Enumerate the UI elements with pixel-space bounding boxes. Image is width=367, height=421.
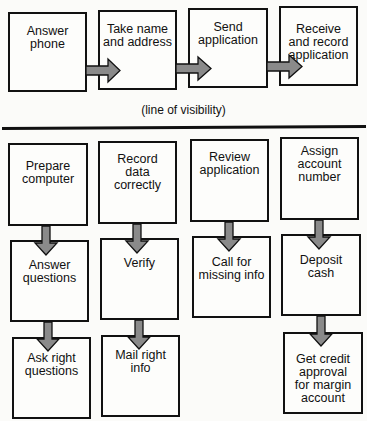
step-label: Review application (200, 151, 260, 177)
step-label: Assign account number (298, 145, 342, 184)
step-label: Mail right info (115, 349, 166, 375)
step-call-for-missing-info: Call for missing info (192, 236, 271, 318)
step-send-application: Send application (188, 8, 268, 88)
step-receive-record-application: Receive and record application (279, 6, 358, 86)
step-prepare-computer: Prepare computer (8, 143, 88, 226)
line-of-visibility-label: (line of visibility) (0, 103, 367, 117)
step-label: Get credit approval for margin account (295, 353, 351, 405)
step-mail-right-info: Mail right info (101, 335, 180, 417)
step-label: Answer phone (27, 25, 69, 51)
step-get-credit-approval: Get credit approval for margin account (283, 332, 363, 414)
step-answer-phone: Answer phone (8, 12, 87, 92)
step-take-name-address: Take name and address (98, 10, 177, 90)
step-label: Ask right questions (25, 352, 79, 378)
step-label: Receive and record application (289, 23, 349, 62)
step-label: Take name and address (103, 23, 172, 49)
step-label: Verify (124, 257, 155, 270)
step-label: Send application (198, 21, 258, 47)
step-assign-account-number: Assign account number (280, 137, 359, 220)
step-label: Answer questions (23, 259, 77, 285)
step-review-application: Review application (190, 139, 269, 222)
step-record-data-correctly: Record data correctly (98, 141, 177, 224)
step-ask-right-questions: Ask right questions (12, 337, 91, 419)
step-answer-questions: Answer questions (10, 240, 89, 322)
service-blueprint-diagram: Answer phone Take name and address Send … (0, 0, 367, 421)
step-label: Deposit cash (300, 254, 342, 280)
line-of-visibility (2, 125, 366, 130)
step-label: Prepare computer (22, 160, 74, 186)
step-deposit-cash: Deposit cash (281, 234, 361, 316)
step-label: Record data correctly (100, 153, 175, 192)
step-verify: Verify (100, 238, 179, 320)
step-label: Call for missing info (199, 256, 265, 282)
